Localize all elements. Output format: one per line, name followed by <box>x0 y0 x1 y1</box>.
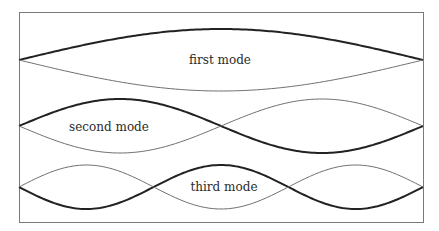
standing-wave-diagram: first mode second mode third mode <box>0 0 439 231</box>
mode-1-label: first mode <box>189 53 251 67</box>
mode-3-label: third mode <box>190 180 257 194</box>
mode-2-group: second mode <box>19 99 423 153</box>
mode-2-label: second mode <box>69 120 149 134</box>
mode-3-group: third mode <box>19 165 423 209</box>
mode-1-group: first mode <box>19 29 423 91</box>
